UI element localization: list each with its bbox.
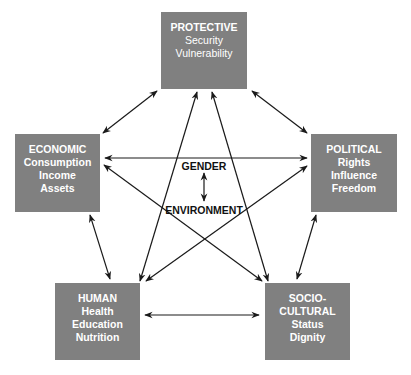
node-protective: PROTECTIVE Security Vulnerability [161,12,247,89]
node-title: HUMAN [55,292,140,305]
arrow-protective-political [252,91,307,133]
arrow-protective-human [140,92,197,281]
node-item: Vulnerability [161,47,247,60]
node-socio-cultural: SOCIO- CULTURAL Status Dignity [265,283,350,360]
node-item: Education [55,318,140,331]
node-item: Freedom [311,182,397,195]
node-item: Assets [15,182,100,195]
node-item: Nutrition [55,331,140,344]
node-title: ECONOMIC [15,143,100,156]
node-item: Health [55,305,140,318]
arrow-protective-economic [103,91,157,133]
node-economic: ECONOMIC Consumption Income Assets [15,134,100,212]
node-title: POLITICAL [311,143,397,156]
node-title-line2: CULTURAL [265,305,350,318]
node-item: Income [15,169,100,182]
node-human: HUMAN Health Education Nutrition [55,283,140,360]
node-political: POLITICAL Rights Influence Freedom [311,134,397,212]
arrow-political-socio [297,215,316,279]
node-title: PROTECTIVE [161,21,247,34]
arrow-economic-human [90,215,110,279]
node-item: Consumption [15,156,100,169]
node-item: Security [161,34,247,47]
node-item: Rights [311,156,397,169]
node-title: SOCIO- [265,292,350,305]
node-item: Status [265,318,350,331]
diagram-canvas: PROTECTIVE Security Vulnerability ECONOM… [0,0,411,375]
node-item: Influence [311,169,397,182]
node-item: Dignity [265,331,350,344]
center-label-gender: GENDER [174,160,234,172]
center-label-environment: ENVIRONMENT [164,204,244,216]
arrow-protective-socio [212,92,268,281]
arrow-political-human [146,166,307,281]
